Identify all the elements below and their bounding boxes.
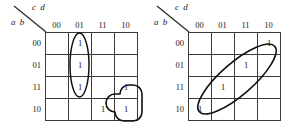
kmap-right-cell-r2c3[interactable] bbox=[258, 77, 281, 99]
kmap-left-cell-r1c3[interactable] bbox=[115, 55, 138, 77]
kmap-right-cell-r3c1[interactable] bbox=[212, 99, 235, 121]
kmap-left-corner-header: c d a b bbox=[10, 2, 50, 34]
kmap-right-col-header-2: 11 bbox=[234, 19, 257, 31]
kmap-left-row-header-3: 10 bbox=[25, 98, 43, 120]
kmap-right-corner-header: c d a b bbox=[153, 2, 193, 34]
kmap-left-cell-r2c3[interactable]: 1 bbox=[115, 77, 138, 99]
kmap-right-column-headers: 00 01 11 10 bbox=[188, 19, 280, 31]
kmap-left-row-header-0: 00 bbox=[25, 32, 43, 54]
kmap-right-cell-r2c0[interactable] bbox=[189, 77, 212, 99]
kmap-left-row-header-2: 11 bbox=[25, 76, 43, 98]
kmap-left-cell-r0c3[interactable] bbox=[115, 33, 138, 55]
kmap-right-cell-r3c3[interactable] bbox=[258, 99, 281, 121]
kmap-left-col-header-0: 00 bbox=[45, 19, 68, 31]
kmap-left-cell-r1c2[interactable] bbox=[92, 55, 115, 77]
kmap-left-cell-r3c2[interactable]: 1 bbox=[92, 99, 115, 121]
kmap-left-cell-r2c2[interactable] bbox=[92, 77, 115, 99]
kmap-left-cell-r3c0[interactable] bbox=[46, 99, 69, 121]
kmap-left-cell-r0c1[interactable]: 1 bbox=[69, 33, 92, 55]
kmap-left-cell-r3c1[interactable] bbox=[69, 99, 92, 121]
kmap-left-column-headers: 00 01 11 10 bbox=[45, 19, 137, 31]
kmap-left-col-header-2: 11 bbox=[91, 19, 114, 31]
kmap-right-cell-r1c0[interactable] bbox=[189, 55, 212, 77]
kmap-right-row-header-2: 11 bbox=[168, 76, 186, 98]
kmap-right: c d a b 00 01 11 10 00 01 11 10 1 1 1 1 bbox=[143, 0, 286, 129]
kmap-right-cell-r1c3[interactable] bbox=[258, 55, 281, 77]
kmap-right-col-header-1: 01 bbox=[211, 19, 234, 31]
kmap-right-cell-r2c1[interactable]: 1 bbox=[212, 77, 235, 99]
kmap-right-cell-r1c2[interactable]: 1 bbox=[235, 55, 258, 77]
kmap-left-cell-r0c2[interactable] bbox=[92, 33, 115, 55]
kmap-left-col-header-3: 10 bbox=[114, 19, 137, 31]
kmap-right-row-var-label: a b bbox=[154, 17, 168, 27]
kmap-left-col-header-1: 01 bbox=[68, 19, 91, 31]
kmap-left-cell-r1c1[interactable]: 1 bbox=[69, 55, 92, 77]
kmap-right-row-header-0: 00 bbox=[168, 32, 186, 54]
kmap-left-cell-r2c0[interactable] bbox=[46, 77, 69, 99]
kmap-right-col-header-3: 10 bbox=[257, 19, 280, 31]
kmap-left-row-header-1: 01 bbox=[25, 54, 43, 76]
kmap-right-cell-r1c1[interactable] bbox=[212, 55, 235, 77]
kmap-right-cell-r0c0[interactable] bbox=[189, 33, 212, 55]
kmap-left-col-var-label: c d bbox=[32, 2, 46, 12]
kmap-right-row-header-1: 01 bbox=[168, 54, 186, 76]
kmap-right-cell-r3c2[interactable] bbox=[235, 99, 258, 121]
kmap-left-cell-r2c1[interactable]: 1 bbox=[69, 77, 92, 99]
kmap-right-col-header-0: 00 bbox=[188, 19, 211, 31]
kmap-left-row-var-label: a b bbox=[11, 17, 25, 27]
kmap-left-cell-r1c0[interactable] bbox=[46, 55, 69, 77]
kmap-left-row-headers: 00 01 11 10 bbox=[25, 32, 43, 120]
kmap-left: c d a b 00 01 11 10 00 01 11 10 1 1 1 1 … bbox=[0, 0, 143, 129]
kmap-left-cell-r3c3[interactable]: 1 bbox=[115, 99, 138, 121]
kmap-right-cell-r0c2[interactable] bbox=[235, 33, 258, 55]
kmap-left-grid: 1 1 1 1 1 1 bbox=[45, 32, 138, 121]
kmap-right-col-var-label: c d bbox=[175, 2, 189, 12]
kmap-right-grid: 1 1 1 1 bbox=[188, 32, 281, 121]
kmap-left-cell-r0c0[interactable] bbox=[46, 33, 69, 55]
kmap-right-cell-r0c3[interactable]: 1 bbox=[258, 33, 281, 55]
kmap-right-cell-r2c2[interactable] bbox=[235, 77, 258, 99]
kmap-right-row-header-3: 10 bbox=[168, 98, 186, 120]
kmap-right-row-headers: 00 01 11 10 bbox=[168, 32, 186, 120]
kmap-right-cell-r0c1[interactable] bbox=[212, 33, 235, 55]
kmap-right-cell-r3c0[interactable]: 1 bbox=[189, 99, 212, 121]
